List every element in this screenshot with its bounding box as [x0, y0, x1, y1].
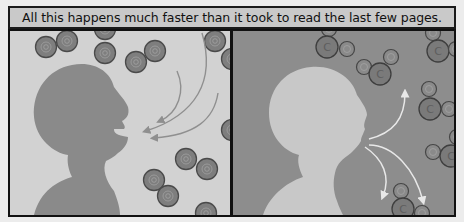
panel-inhale [8, 29, 232, 217]
carbon-dioxide-molecule [392, 184, 430, 216]
carbon-dioxide-molecule [316, 31, 355, 58]
exhale-arrow [365, 147, 386, 196]
oxygen-molecule [196, 203, 217, 216]
oxygen-molecule [36, 31, 78, 58]
carbon-dioxide-molecule [426, 130, 455, 168]
exhale-arrow [369, 93, 405, 139]
panel-exhale: C [231, 29, 456, 217]
inhale-arrow [154, 93, 218, 138]
inhale-arrow [160, 71, 181, 121]
oxygen-molecule [176, 149, 218, 180]
person-silhouette-inhaling [34, 64, 129, 215]
oxygen-molecule [144, 170, 179, 207]
carbon-dioxide-molecule [419, 82, 454, 121]
exhale-illustration: C [233, 31, 454, 215]
carbon-dioxide-molecule [426, 31, 455, 62]
caption-box: All this happens much faster than it too… [8, 6, 456, 29]
inhale-illustration [10, 31, 230, 215]
carbon-dioxide-molecule [357, 50, 399, 86]
oxygen-molecule [205, 31, 231, 70]
oxygen-molecule [95, 31, 116, 64]
oxygen-molecule [222, 120, 231, 141]
oxygen-molecule [126, 41, 166, 73]
caption-text: All this happens much faster than it too… [22, 10, 442, 25]
person-silhouette-exhaling [263, 67, 367, 215]
